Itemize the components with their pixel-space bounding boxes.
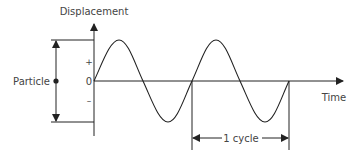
particle-dot xyxy=(53,78,58,83)
x-axis-label: Time xyxy=(321,92,346,103)
cycle-label: 1 cycle xyxy=(223,133,258,144)
y-axis-label: Displacement xyxy=(60,6,129,17)
wave-diagram: Displacement Time + 0 – Particle 1 cycle xyxy=(0,0,356,159)
plus-label: + xyxy=(85,57,93,67)
particle-label: Particle xyxy=(13,76,50,87)
zero-label: 0 xyxy=(86,76,92,87)
minus-label: – xyxy=(87,96,92,106)
